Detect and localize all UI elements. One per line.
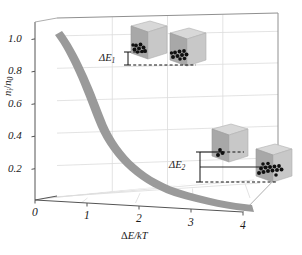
y-tick-0.4: 0.4 bbox=[8, 130, 22, 141]
cube-lower-left bbox=[212, 124, 248, 162]
x-tick-0: 0 bbox=[32, 207, 38, 219]
y-axis-title-n: n bbox=[2, 91, 13, 96]
y-axis-title-n0: n bbox=[2, 80, 13, 85]
x-axis-title: ΔE/kT bbox=[121, 231, 148, 242]
x-axis-title-delta: Δ bbox=[121, 230, 128, 241]
delta-e-2-sub: 2 bbox=[182, 163, 186, 172]
y-tick-1.0: 1.0 bbox=[8, 33, 22, 44]
y-axis-title-slash: / bbox=[2, 86, 13, 89]
cube-upper-left bbox=[131, 21, 167, 59]
boltzmann-3d-figure bbox=[0, 0, 302, 255]
cube-lower-right bbox=[256, 144, 292, 182]
y-tick-0.8: 0.8 bbox=[8, 65, 22, 76]
x-tick-1: 1 bbox=[84, 210, 90, 222]
y-tick-0.6: 0.6 bbox=[8, 98, 22, 109]
y-axis bbox=[32, 18, 58, 200]
y-axis-ticks bbox=[32, 39, 36, 169]
delta-e-2-label: ΔE2 bbox=[169, 160, 185, 171]
x-axis-title-kT: /kT bbox=[134, 230, 147, 241]
y-tick-0.2: 0.2 bbox=[8, 163, 22, 174]
y-axis-title: ni/n0 bbox=[2, 77, 15, 96]
delta-e-1-sub: 1 bbox=[112, 56, 116, 65]
y-axis-title-zero: 0 bbox=[6, 77, 15, 81]
cube-upper-right bbox=[170, 28, 206, 66]
x-tick-3: 3 bbox=[188, 217, 194, 229]
delta-e-1-label: ΔE1 bbox=[99, 53, 115, 64]
x-tick-2: 2 bbox=[136, 213, 142, 225]
x-tick-4: 4 bbox=[240, 220, 246, 232]
